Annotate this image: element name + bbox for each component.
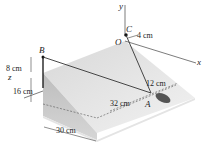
point-label-a: A (144, 99, 151, 109)
y-axis-label: y (118, 1, 123, 11)
z-axis-label: z (7, 72, 12, 82)
dim-label-30cm: 30 cm (56, 126, 77, 135)
dim-label-8cm: 8 cm (6, 64, 23, 73)
dim-label-32cm: 32 cm (110, 99, 131, 108)
inclined-plane-diagram: y x z C O B A 4 cm 8 cm 16 cm 30 cm 32 c… (0, 0, 207, 154)
point-label-b: B (39, 45, 45, 55)
dim-label-16cm: 16 cm (13, 87, 34, 96)
dim-label-12cm: 12 cm (146, 79, 167, 88)
diagram-root: y x z C O B A 4 cm 8 cm 16 cm 30 cm 32 c… (0, 0, 207, 154)
point-label-o: O (115, 37, 122, 47)
dim-label-4cm: 4 cm (137, 31, 154, 40)
point-label-c: C (126, 24, 133, 34)
x-axis-label: x (196, 57, 201, 67)
